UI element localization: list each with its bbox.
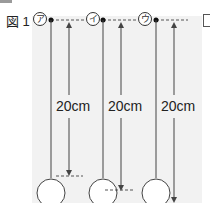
length-label-i: 20cm: [108, 97, 142, 115]
length-label-a: 20cm: [56, 97, 90, 115]
length-label-u: 20cm: [161, 97, 195, 115]
